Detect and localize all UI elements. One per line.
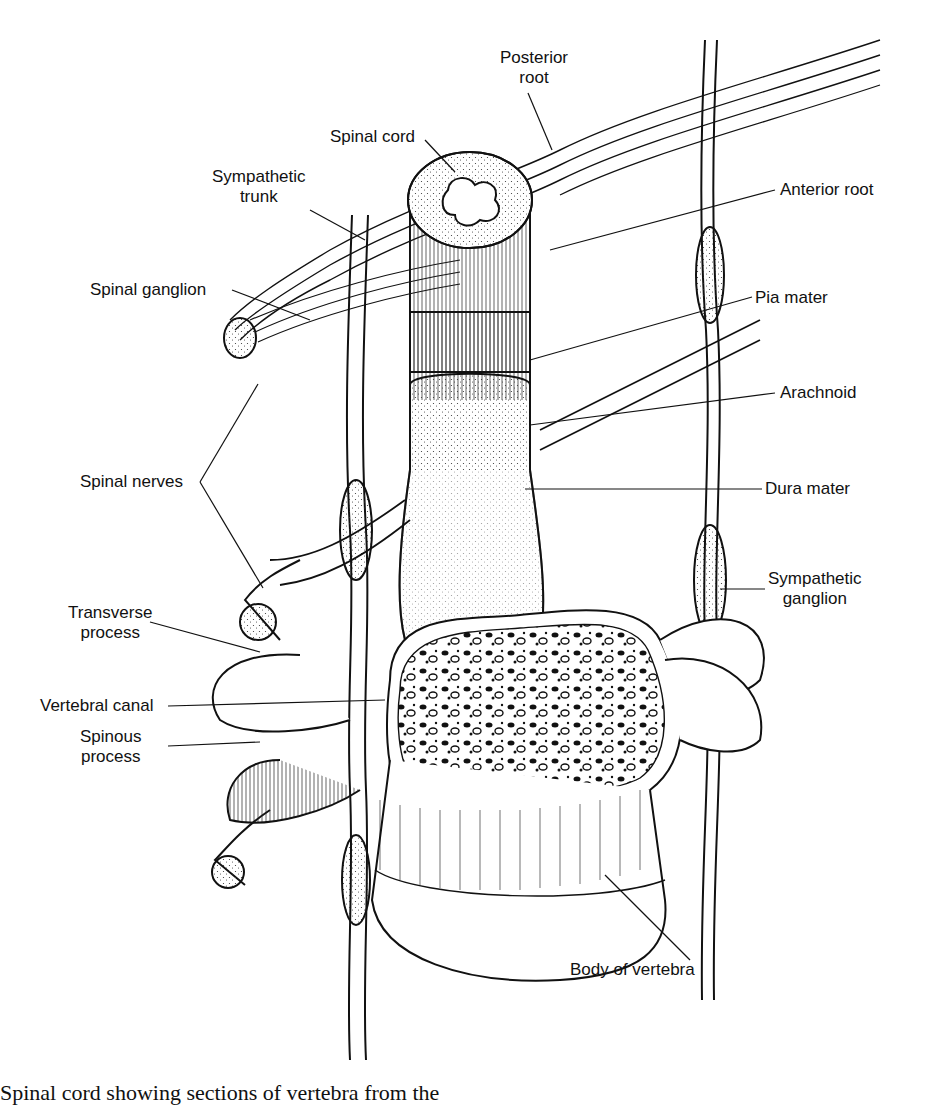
label-anterior-root: Anterior root — [780, 180, 874, 200]
label-body-of-vertebra: Body of vertebra — [570, 960, 695, 980]
label-vertebral-canal: Vertebral canal — [40, 696, 153, 716]
label-sympathetic-trunk: Sympathetic trunk — [212, 167, 306, 207]
label-transverse-process: Transverse process — [68, 603, 152, 643]
label-arachnoid: Arachnoid — [780, 383, 857, 403]
label-spinal-nerves: Spinal nerves — [80, 472, 183, 492]
label-dura-mater: Dura mater — [765, 479, 850, 499]
label-pia-mater: Pia mater — [755, 288, 828, 308]
label-sympathetic-ganglion: Sympathetic ganglion — [768, 569, 862, 609]
label-posterior-root: Posterior root — [500, 48, 568, 88]
label-spinal-ganglion: Spinal ganglion — [90, 280, 206, 300]
label-spinous-process: Spinous process — [80, 727, 141, 767]
figure-caption: Spinal cord showing sections of vertebra… — [0, 1080, 439, 1106]
label-spinal-cord: Spinal cord — [330, 127, 415, 147]
